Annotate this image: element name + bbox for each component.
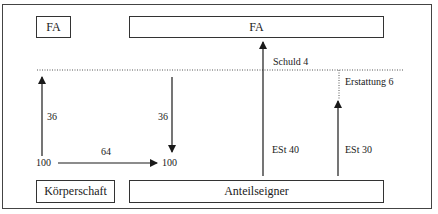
label-erstattung: Erstattung 6 (345, 76, 394, 87)
label-100-left: 100 (36, 157, 51, 168)
label-est40: ESt 40 (272, 144, 299, 155)
label-schuld: Schuld 4 (273, 56, 308, 67)
arrows-layer (0, 0, 438, 214)
label-64: 64 (101, 146, 111, 157)
label-36-right: 36 (158, 111, 168, 122)
label-est30: ESt 30 (345, 144, 372, 155)
label-36-left: 36 (47, 111, 57, 122)
label-100-right: 100 (162, 157, 177, 168)
